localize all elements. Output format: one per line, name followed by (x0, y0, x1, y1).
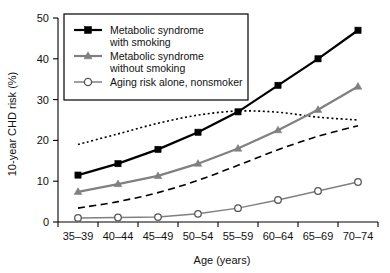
y-axis-title: 10-year CHD risk (%) (6, 72, 18, 177)
data-point-marker (115, 214, 122, 221)
data-point-marker (155, 214, 162, 221)
y-tick-label: 40 (37, 53, 49, 65)
data-point-marker (75, 172, 81, 178)
data-point-marker (195, 129, 201, 135)
data-point-marker (155, 146, 161, 152)
data-point-marker (75, 215, 82, 222)
data-point-marker (355, 27, 361, 33)
legend-label-line1: Metabolic syndrome (110, 50, 204, 62)
chd-risk-line-chart: 01020304050 35–3940–4445–4950–5455–5960–… (0, 0, 390, 273)
data-point-marker (315, 188, 322, 195)
data-point-marker (115, 161, 121, 167)
legend-label-line2: with smoking (109, 36, 171, 48)
x-tick-label: 35–39 (63, 230, 94, 242)
y-tick-label: 20 (37, 134, 49, 146)
x-tick-label: 60–64 (263, 230, 294, 242)
data-point-marker (315, 56, 321, 62)
x-tick-label: 55–59 (223, 230, 254, 242)
data-point-marker (235, 109, 241, 115)
data-point-marker (195, 211, 202, 218)
legend-label-line2: without smoking (109, 62, 185, 74)
x-tick-label: 45–49 (143, 230, 174, 242)
legend-circle-icon (84, 78, 91, 85)
x-tick-label: 70–74 (343, 230, 374, 242)
y-tick-label: 30 (37, 94, 49, 106)
legend-square-icon (85, 27, 92, 34)
chart-legend: Metabolic syndromewith smokingMetabolic … (64, 14, 248, 100)
y-tick-label: 50 (37, 12, 49, 24)
y-tick-label: 10 (37, 175, 49, 187)
data-point-marker (235, 205, 242, 212)
data-point-marker (275, 197, 282, 204)
x-axis-title: Age (years) (194, 254, 251, 266)
legend-label-line1: Aging risk alone, nonsmoker (110, 76, 243, 88)
x-tick-label: 40–44 (103, 230, 134, 242)
data-point-marker (275, 82, 281, 88)
chart-svg: 01020304050 35–3940–4445–4950–5455–5960–… (0, 0, 390, 273)
data-point-marker (355, 179, 362, 186)
x-tick-label: 65–69 (303, 230, 334, 242)
y-tick-label: 0 (43, 216, 49, 228)
x-tick-label: 50–54 (183, 230, 214, 242)
legend-label-line1: Metabolic syndrome (110, 24, 204, 36)
